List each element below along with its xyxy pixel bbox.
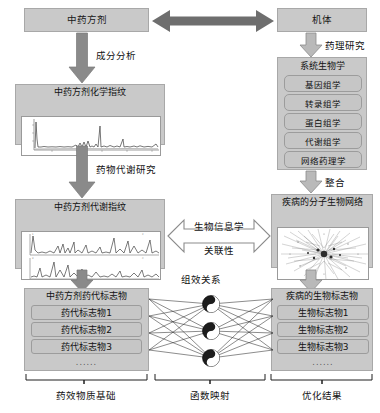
network-relation-label: 组效关系 — [168, 272, 234, 286]
systems-biology-panel: 系统生物学 基因组学 转录组学 蛋白组学 代谢组学 网络药理学 — [277, 57, 367, 170]
bottom-brackets — [24, 372, 374, 386]
omics-item-network-pharmacology[interactable]: 网络药理学 — [284, 151, 362, 168]
arrow-pharmacology-label: 药理研究 — [325, 38, 365, 52]
diagram-canvas: 中药方剂 成分分析 中药方剂化学指纹 — [0, 0, 380, 413]
molecular-network-panel: 疾病的分子生物网络 — [271, 194, 373, 268]
biomarker-ellipsis: ...... — [277, 356, 369, 368]
pk-marker-ellipsis: ...... — [31, 356, 142, 368]
function-mapping-network — [146, 288, 276, 374]
svg-text:2: 2 — [142, 233, 144, 236]
pk-marker-item-3[interactable]: 药代标志物3 — [31, 339, 142, 354]
omics-item-proteomics[interactable]: 蛋白组学 — [284, 113, 362, 130]
molecular-network-title: 疾病的分子生物网络 — [272, 195, 372, 210]
biomarker-panel-title: 疾病的生物标志物 — [272, 289, 372, 304]
association-label: 关联性 — [168, 243, 270, 257]
pk-marker-item-2[interactable]: 药代标志物2 — [31, 322, 142, 337]
pk-marker-item-1[interactable]: 药代标志物1 — [31, 305, 142, 320]
biomarker-panel: 疾病的生物标志物 生物标志物1 生物标志物2 生物标志物3 ...... — [271, 288, 373, 371]
left-formula-label: 中药方剂 — [67, 15, 107, 25]
metab-fingerprint-panel: 中药方剂代谢指纹 12 34 — [15, 199, 165, 269]
bioinformatics-label: 生物信息学 — [168, 219, 270, 233]
svg-text:1: 1 — [32, 233, 34, 236]
pk-marker-panel: 中药方剂药代标志物 药代标志物1 药代标志物2 药代标志物3 ...... — [24, 288, 149, 371]
arrow-drug-metabolism — [69, 146, 95, 198]
arrow-drug-metabolism-label: 药物代谢研究 — [96, 162, 156, 176]
top-bidirectional-arrow — [152, 8, 274, 34]
svg-text:4: 4 — [142, 257, 144, 260]
bracket-label-material-basis: 药效物质基础 — [24, 388, 147, 402]
right-organism-label: 机体 — [312, 15, 332, 25]
right-organism-box: 机体 — [277, 8, 367, 32]
metab-fingerprint-title: 中药方剂代谢指纹 — [16, 200, 164, 214]
systems-biology-title: 系统生物学 — [278, 58, 366, 74]
taiji-yinyang-icon — [203, 296, 220, 367]
omics-item-genomics[interactable]: 基因组学 — [284, 75, 362, 92]
left-formula-box: 中药方剂 — [24, 8, 149, 32]
molecular-network-plot — [277, 227, 369, 280]
chem-fingerprint-panel: 中药方剂化学指纹 — [15, 84, 165, 145]
omics-item-metabolomics[interactable]: 代谢组学 — [284, 132, 362, 149]
arrow-component-analysis — [69, 33, 95, 83]
biomarker-item-2[interactable]: 生物标志物2 — [277, 322, 369, 337]
bracket-label-function-mapping: 函数映射 — [155, 388, 265, 402]
svg-text:3: 3 — [32, 257, 34, 260]
bracket-label-optimization-result: 优化结果 — [271, 388, 373, 402]
arrow-pharmacology-research — [300, 33, 322, 57]
arrow-integration-label: 整合 — [325, 175, 345, 189]
omics-item-transcriptomics[interactable]: 转录组学 — [284, 94, 362, 111]
biomarker-item-3[interactable]: 生物标志物3 — [277, 339, 369, 354]
chem-fingerprint-title: 中药方剂化学指纹 — [16, 85, 164, 99]
pk-marker-panel-title: 中药方剂药代标志物 — [25, 289, 148, 304]
arrow-component-analysis-label: 成分分析 — [96, 48, 136, 62]
biomarker-item-1[interactable]: 生物标志物1 — [277, 305, 369, 320]
arrow-integration — [300, 171, 322, 193]
